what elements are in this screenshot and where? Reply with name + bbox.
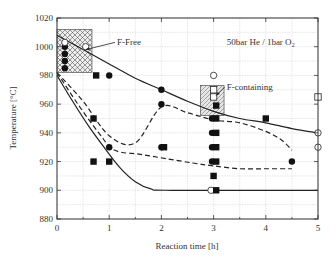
data-points — [62, 39, 322, 193]
filled-circle-marker — [289, 158, 295, 164]
filled-square-marker — [213, 115, 219, 121]
filled-square-marker — [213, 158, 219, 164]
y-tick-label: 980 — [40, 70, 54, 80]
annotation-label: F-Free — [117, 37, 141, 47]
open-square-marker — [210, 94, 216, 100]
y-tick-label: 960 — [40, 99, 54, 109]
filled-circle-marker — [62, 51, 68, 57]
filled-circle-marker — [158, 101, 164, 107]
filled-circle-marker — [62, 58, 68, 64]
filled-square-marker — [90, 158, 96, 164]
filled-circle-marker — [106, 72, 112, 78]
annotations: 50bar He / 1bar O2F-FreeF-containing — [86, 37, 295, 95]
y-axis-label: Temperature [°C] — [8, 86, 18, 149]
open-circle-marker — [210, 72, 216, 78]
annotation-label: F-containing — [227, 82, 273, 92]
y-tick-label: 880 — [40, 214, 54, 224]
y-tick-label: 1020 — [35, 13, 54, 23]
filled-square-marker — [213, 130, 219, 136]
x-tick-label: 0 — [55, 223, 60, 233]
filled-square-marker — [161, 144, 167, 150]
filled-square-marker — [90, 115, 96, 121]
filled-square-marker — [93, 72, 99, 78]
chart: 01234588090092094096098010001020 50bar H… — [0, 0, 336, 260]
filled-square-marker — [213, 187, 219, 193]
filled-square-marker — [263, 115, 269, 121]
filled-square-marker — [210, 173, 216, 179]
open-square-marker — [210, 87, 216, 93]
filled-circle-marker — [106, 144, 112, 150]
y-tick-label: 1000 — [35, 42, 54, 52]
filled-circle-marker — [158, 87, 164, 93]
y-tick-label: 920 — [40, 157, 54, 167]
filled-square-marker — [106, 158, 112, 164]
x-tick-label: 3 — [211, 223, 216, 233]
x-axis-label: Reaction time [h] — [156, 241, 219, 251]
filled-circle-marker — [62, 65, 68, 71]
open-circle-marker — [62, 39, 68, 45]
y-tick-label: 900 — [40, 185, 54, 195]
x-tick-label: 5 — [316, 223, 321, 233]
x-tick-label: 2 — [159, 223, 164, 233]
x-tick-label: 1 — [107, 223, 112, 233]
filled-square-marker — [213, 102, 219, 108]
y-tick-label: 940 — [40, 128, 54, 138]
x-tick-label: 4 — [264, 223, 269, 233]
filled-square-marker — [213, 144, 219, 150]
annotation-label: 50bar He / 1bar O2 — [227, 37, 295, 48]
